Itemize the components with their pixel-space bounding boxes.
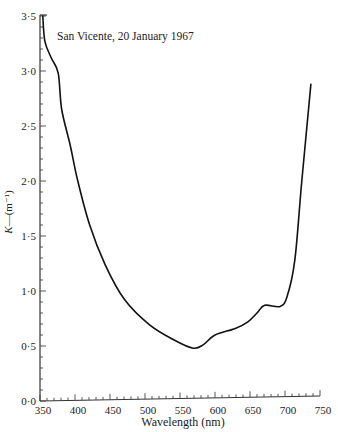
y-tick-label: 3·5 (21, 10, 36, 22)
y-tick-label: 3·0 (21, 65, 36, 77)
y-tick-label: 0·5 (21, 340, 36, 352)
chart-container: 0·00·51·01·52·02·53·03·53504004505005506… (0, 0, 338, 432)
y-tick-label: 2·5 (21, 120, 36, 132)
y-tick-label: 1·5 (21, 230, 36, 242)
line-chart: 0·00·51·01·52·02·53·03·53504004505005506… (0, 0, 338, 432)
x-tick-label: 450 (105, 404, 122, 416)
x-tick-label: 400 (70, 404, 87, 416)
attenuation-curve (43, 16, 311, 348)
chart-annotation: San Vicente, 20 January 1967 (57, 30, 194, 43)
x-tick-label: 650 (245, 404, 262, 416)
tick-labels: 0·00·51·01·52·02·53·03·53504004505005506… (21, 10, 331, 416)
x-tick-label: 350 (35, 404, 52, 416)
x-tick-label: 700 (280, 404, 297, 416)
y-axis-label: K—(m⁻¹) (2, 190, 15, 235)
y-tick-label: 2·0 (21, 175, 36, 187)
x-tick-label: 750 (315, 404, 332, 416)
x-axis-label: Wavelength (nm) (141, 415, 224, 429)
y-tick-label: 1·0 (21, 285, 36, 297)
